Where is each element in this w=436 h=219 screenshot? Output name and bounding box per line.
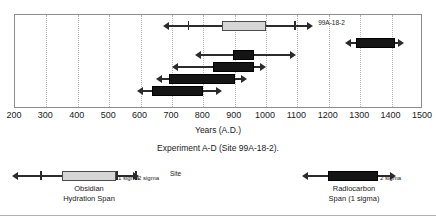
legend-label-site: Site	[170, 170, 181, 177]
row-label: 99A-18-2	[318, 19, 345, 26]
legend-label-2-sigma: 2 sigma	[138, 175, 159, 181]
radiocarbon-span-box	[356, 38, 395, 48]
row-arrow-left-icon	[156, 75, 162, 83]
row-arrow-right-icon	[216, 87, 222, 95]
legend-label-1-sigma: 1 sigma	[118, 175, 139, 181]
legend-rc-caption-line1: Radiocarbon	[312, 184, 396, 194]
chart-plot-area: 99A-18-2	[14, 14, 422, 108]
row-arrow-left-icon	[195, 51, 201, 59]
chart-row	[15, 61, 421, 73]
x-axis-tick-labels: 2003004005006007008009001000110012001300…	[0, 110, 436, 124]
chart-row: 99A-18-2	[15, 20, 421, 32]
row-sigma1-tick-left	[188, 21, 190, 30]
radiocarbon-span-box	[233, 50, 253, 60]
legend-obsidian-caption-line1: Obsidian	[52, 184, 126, 194]
row-sigma1-tick-right	[294, 21, 296, 30]
figure-caption: Experiment A-D (Site 99A-18-2).	[0, 143, 436, 153]
row-arrow-left-icon	[137, 87, 143, 95]
legend-obsidian-scale: 1 sigma 2 sigma Site	[10, 170, 210, 184]
legend-rc-caption-line2: Span (1 sigma)	[312, 194, 396, 204]
chart-row	[15, 85, 421, 97]
row-arrow-left-icon	[163, 22, 169, 30]
bottom-divider	[0, 215, 436, 216]
legend-obsidian-span-box	[62, 171, 116, 181]
radiocarbon-span-box	[169, 74, 235, 84]
legend-rc-label-2-sigma: 2 sigma	[380, 175, 401, 181]
legend-radiocarbon: 2 sigma Radiocarbon Span (1 sigma)	[300, 170, 430, 216]
x-axis-title: Years (A.D.)	[0, 125, 436, 135]
obsidian-span-box	[222, 21, 266, 31]
row-arrow-right-icon	[260, 63, 266, 71]
row-arrow-right-icon	[398, 39, 404, 47]
legend-obsidian-caption: Obsidian Hydration Span	[52, 184, 126, 204]
legend-obsidian-caption-line2: Hydration Span	[52, 194, 126, 204]
row-arrow-right-icon	[290, 51, 296, 59]
row-arrow-right-icon	[241, 75, 247, 83]
legend-rc-arrow-left-icon	[302, 172, 308, 180]
chart-row	[15, 37, 421, 49]
legend-sigma2-tick-left	[40, 171, 42, 180]
chart-data-rows: 99A-18-2	[15, 15, 421, 107]
legend-radiocarbon-caption: Radiocarbon Span (1 sigma)	[312, 184, 396, 204]
radiocarbon-span-box	[213, 62, 254, 72]
legend-arrow-left-icon	[12, 172, 18, 180]
legend-radiocarbon-span-box	[328, 171, 378, 181]
chart-row	[15, 49, 421, 61]
legend-radiocarbon-scale: 2 sigma	[300, 170, 430, 184]
row-arrow-left-icon	[172, 63, 178, 71]
row-arrow-right-icon	[307, 22, 313, 30]
row-arrow-left-icon	[345, 39, 351, 47]
legend-obsidian-hydration: 1 sigma 2 sigma Site Obsidian Hydration …	[10, 170, 210, 216]
chart-row	[15, 73, 421, 85]
x-tick-1500: 1500	[402, 110, 436, 120]
radiocarbon-span-box	[152, 86, 204, 96]
